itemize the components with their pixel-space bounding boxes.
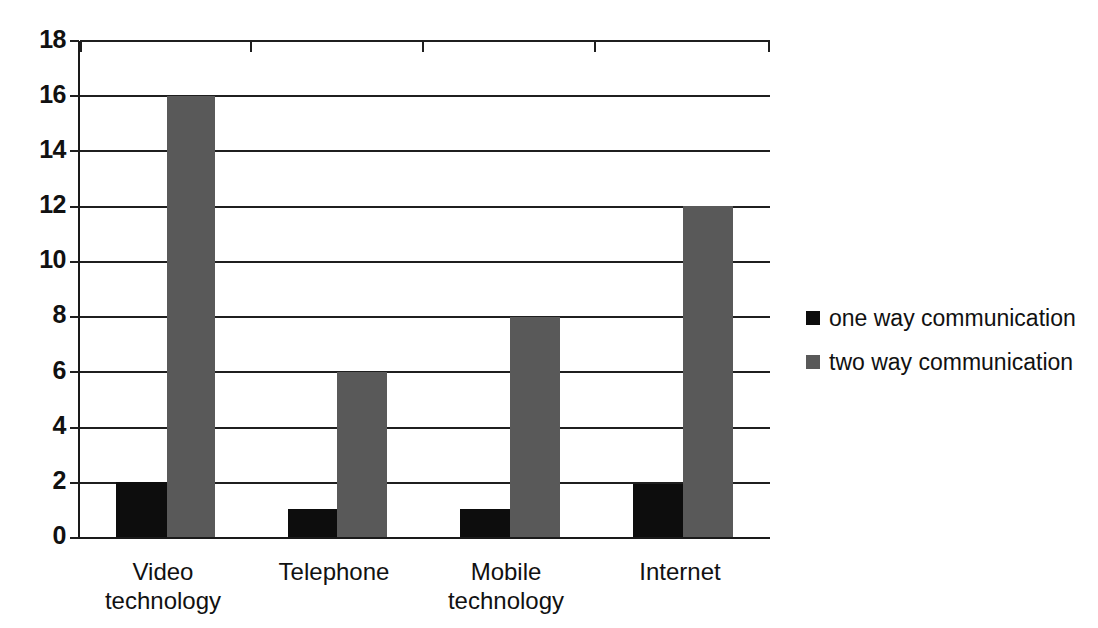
y-axis-label-8: 8 (20, 302, 66, 327)
y-tick-10 (70, 261, 79, 263)
x-axis-category-telephone: Telephone (248, 557, 420, 586)
x-tick-4 (768, 41, 770, 52)
y-axis-label-14: 14 (20, 137, 66, 162)
x-tick-1 (250, 41, 252, 52)
legend-label-two-way: two way communication (829, 351, 1073, 374)
legend-label-one-way: one way communication (829, 307, 1076, 330)
legend-item-two-way-communication: two way communication (806, 340, 1096, 384)
y-tick-14 (70, 150, 79, 152)
x-tick-3 (594, 41, 596, 52)
y-tick-6 (70, 371, 79, 373)
y-axis-label-0: 0 (20, 523, 66, 548)
legend-swatch-icon-one-way (806, 311, 820, 325)
y-axis-label-4: 4 (20, 413, 66, 438)
bar-internet-two-way (683, 206, 733, 537)
x-axis-category-mobile-technology: Mobile technology (420, 557, 592, 616)
y-axis-label-16: 16 (20, 82, 66, 107)
legend: one way communication two way communicat… (806, 296, 1096, 384)
bar-telephone-two-way (337, 372, 387, 537)
y-tick-4 (70, 427, 79, 429)
x-axis-category-internet: Internet (592, 557, 768, 586)
bar-video-technology-one-way (116, 482, 167, 537)
bar-telephone-one-way (288, 509, 337, 537)
y-tick-12 (70, 206, 79, 208)
x-tick-2 (422, 41, 424, 52)
x-tick-0 (80, 41, 82, 52)
y-axis-label-12: 12 (20, 192, 66, 217)
y-tick-16 (70, 95, 79, 97)
legend-swatch-icon-two-way (806, 355, 820, 369)
y-tick-18 (70, 40, 79, 42)
gridline-18 (80, 40, 770, 42)
x-axis-category-video-technology: Video technology (78, 557, 248, 616)
y-axis-label-10: 10 (20, 247, 66, 272)
legend-item-one-way-communication: one way communication (806, 296, 1096, 340)
y-tick-2 (70, 482, 79, 484)
plot-area (78, 41, 770, 539)
bar-chart: 18 16 14 12 10 8 6 4 2 0 (0, 0, 1098, 628)
bar-video-technology-two-way (167, 96, 215, 537)
bar-internet-one-way (633, 484, 683, 537)
y-tick-0 (70, 537, 79, 539)
y-tick-8 (70, 316, 79, 318)
y-axis-label-6: 6 (20, 358, 66, 383)
y-axis-label-2: 2 (20, 468, 66, 493)
bar-mobile-technology-one-way (460, 509, 510, 537)
bar-mobile-technology-two-way (510, 317, 560, 537)
y-axis-label-18: 18 (20, 27, 66, 52)
